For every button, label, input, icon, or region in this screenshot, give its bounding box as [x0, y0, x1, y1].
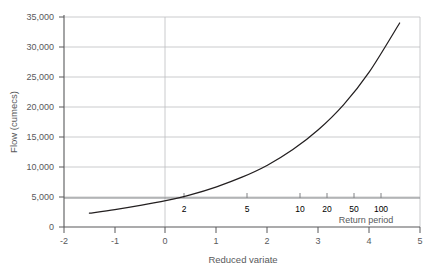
- sec-tick-label-10: 10: [295, 204, 305, 214]
- y-tick-label-0: 0: [49, 222, 54, 232]
- y-axis-title: Flow (cumecs): [8, 91, 19, 153]
- flow-frequency-curve: [89, 23, 399, 213]
- y-tick-label-20000: 20,000: [26, 102, 54, 112]
- x-tick-label--1: -1: [111, 236, 119, 246]
- x-tick-label-0: 0: [162, 236, 167, 246]
- y-gridlines: [64, 17, 420, 197]
- x-tick-label-3: 3: [315, 236, 320, 246]
- y-axis-ticks: [59, 17, 64, 227]
- y-tick-label-5000: 5,000: [31, 192, 54, 202]
- sec-tick-label-50: 50: [349, 204, 359, 214]
- y-axis-tick-labels: 35,000 30,000 25,000 20,000 15,000 10,00…: [26, 12, 54, 232]
- secondary-axis-tick-labels: 2 5 10 20 50 100: [182, 204, 389, 214]
- chart-canvas: 2 5 10 20 50 100 Return period 35,000 30…: [0, 0, 436, 274]
- x-axis-tick-labels: -2 -1 0 1 2 3 4 5: [60, 236, 423, 246]
- x-tick-label-5: 5: [417, 236, 422, 246]
- y-tick-label-35000: 35,000: [26, 12, 54, 22]
- x-tick-label--2: -2: [60, 236, 68, 246]
- sec-tick-label-2: 2: [182, 204, 187, 214]
- y-tick-label-25000: 25,000: [26, 72, 54, 82]
- x-tick-label-4: 4: [366, 236, 371, 246]
- y-tick-label-30000: 30,000: [26, 42, 54, 52]
- x-tick-label-1: 1: [213, 236, 218, 246]
- x-tick-label-2: 2: [264, 236, 269, 246]
- x-axis-title: Reduced variate: [208, 254, 277, 265]
- x-axis-ticks: [64, 227, 420, 233]
- y-tick-label-15000: 15,000: [26, 132, 54, 142]
- y-tick-label-10000: 10,000: [26, 162, 54, 172]
- sec-tick-label-100: 100: [374, 204, 388, 214]
- secondary-axis-title: Return period: [339, 215, 394, 225]
- sec-tick-label-5: 5: [245, 204, 250, 214]
- flow-frequency-chart: 2 5 10 20 50 100 Return period 35,000 30…: [0, 0, 436, 274]
- sec-tick-label-20: 20: [322, 204, 332, 214]
